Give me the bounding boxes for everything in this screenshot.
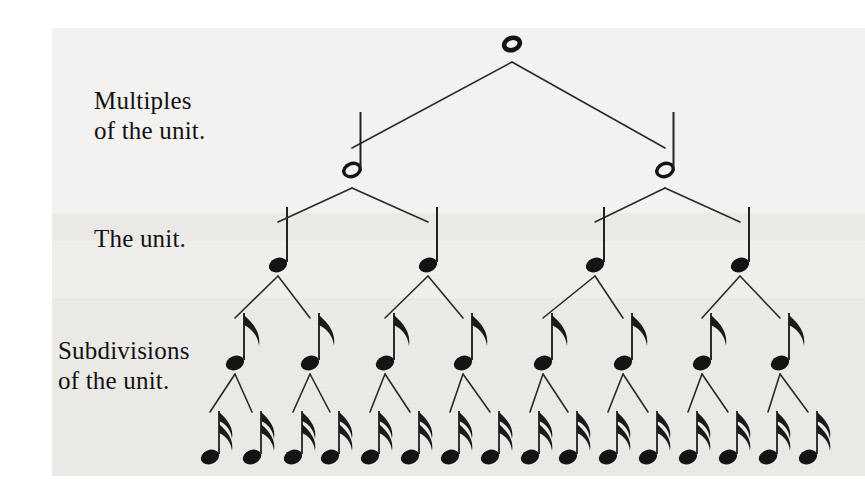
eighth-note bbox=[691, 313, 727, 373]
tree-connector-lines bbox=[210, 62, 808, 412]
sixteenth-note bbox=[677, 411, 711, 467]
note-value-tree-figure: Multiples of the unit. The unit. Subdivi… bbox=[0, 0, 865, 500]
quarter-note bbox=[584, 207, 607, 275]
sixteenth-note bbox=[519, 411, 553, 467]
sixteenth-note bbox=[282, 411, 316, 467]
eighth-note bbox=[224, 313, 260, 373]
half-note bbox=[342, 112, 363, 179]
quarter-note bbox=[267, 207, 290, 275]
whole-note bbox=[503, 36, 522, 52]
sixteenth-note bbox=[637, 411, 671, 467]
sixteenth-note bbox=[479, 411, 513, 467]
label-multiples-of-the-unit: Multiples of the unit. bbox=[94, 86, 205, 145]
eighth-note bbox=[532, 313, 568, 373]
eighth-note bbox=[452, 313, 488, 373]
sixteenth-note bbox=[757, 411, 791, 467]
eighth-note bbox=[299, 313, 335, 373]
sixteenth-note bbox=[241, 411, 275, 467]
sixteenth-note bbox=[359, 411, 393, 467]
sixteenth-note bbox=[597, 411, 631, 467]
sixteenth-note bbox=[399, 411, 433, 467]
quarter-note bbox=[729, 207, 752, 275]
sixteenth-note bbox=[797, 411, 831, 467]
half-note bbox=[655, 112, 676, 179]
eighth-note bbox=[374, 313, 410, 373]
sixteenth-note bbox=[439, 411, 473, 467]
eighth-note bbox=[612, 313, 648, 373]
quarter-note bbox=[417, 207, 440, 275]
label-the-unit: The unit. bbox=[94, 224, 186, 254]
sixteenth-note bbox=[199, 411, 233, 467]
sixteenth-note bbox=[557, 411, 591, 467]
eighth-note bbox=[769, 313, 805, 373]
sixteenth-note bbox=[319, 411, 353, 467]
sixteenth-note bbox=[717, 411, 751, 467]
label-subdivisions-of-the-unit: Subdivisions of the unit. bbox=[58, 336, 190, 395]
